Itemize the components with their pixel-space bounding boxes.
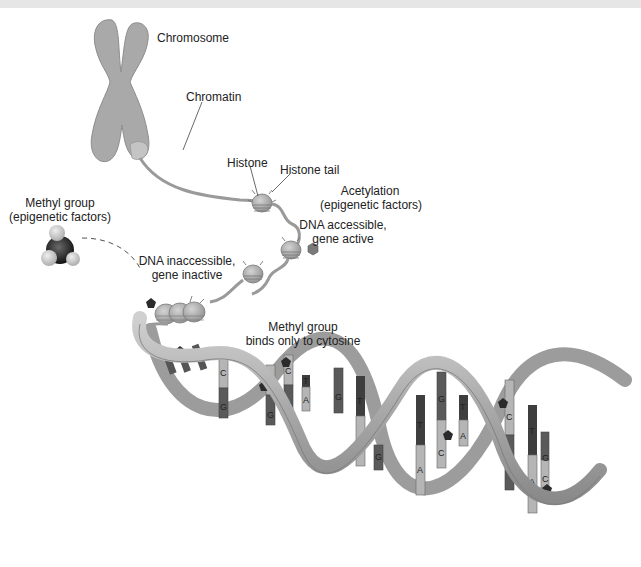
svg-text:G: G [542,453,549,463]
label-acetylation: Acetylation (epigenetic factors) [320,184,420,212]
svg-text:G: G [220,402,227,412]
svg-text:G: G [438,394,445,404]
svg-text:A: A [460,431,466,441]
accessible-line-2: gene active [288,232,398,246]
inaccessible-line-2: gene inactive [132,268,242,282]
binds-line-1: Methyl group [238,320,368,334]
svg-text:C: C [542,474,549,484]
label-histone: Histone [227,156,268,170]
svg-text:T: T [303,376,309,386]
nucleosome-1 [248,190,276,212]
chromosome-shape [91,20,149,162]
inaccessible-line-1: DNA inaccessible, [132,254,242,268]
svg-text:G: G [267,410,274,420]
accessible-line-1: DNA accessible, [288,218,398,232]
dna-double-helix: CG CG CG TA G TA G TA [139,318,625,513]
diagram-artwork: CG CG CG TA G TA G TA [0,0,641,567]
svg-text:C: C [285,366,292,376]
chromatin-leader-line [183,102,202,150]
label-histone-tail: Histone tail [280,163,339,177]
acetylation-line-2: (epigenetic factors) [320,198,420,212]
methyl-line-1: Methyl group [5,196,115,210]
methyl-group-molecule-icon [41,225,80,266]
label-dna-accessible: DNA accessible, gene active [288,218,398,246]
svg-text:G: G [335,392,342,402]
histone-leader-line [250,166,258,196]
svg-text:T: T [529,426,535,436]
svg-text:C: C [220,368,227,378]
acetylation-line-1: Acetylation [320,184,420,198]
label-binds-cytosine: Methyl group binds only to cytosine [238,320,368,348]
svg-text:G: G [375,452,382,462]
svg-text:A: A [417,465,423,475]
epigenetics-diagram: CG CG CG TA G TA G TA [0,0,641,567]
label-dna-inaccessible: DNA inaccessible, gene inactive [132,254,242,282]
label-methyl-group: Methyl group (epigenetic factors) [5,196,115,224]
nucleosome-3 [243,261,263,283]
methyl-marker-icon [146,298,156,308]
label-chromosome: Chromosome [157,31,229,45]
svg-text:C: C [506,412,513,422]
svg-text:C: C [438,448,445,458]
svg-text:A: A [303,395,309,405]
label-chromatin: Chromatin [186,90,241,104]
condensed-nucleosomes [146,296,205,324]
svg-text:T: T [417,420,423,430]
svg-text:T: T [460,402,466,412]
methyl-line-2: (epigenetic factors) [5,210,115,224]
svg-text:T: T [357,396,363,406]
binds-line-2: binds only to cytosine [238,334,368,348]
